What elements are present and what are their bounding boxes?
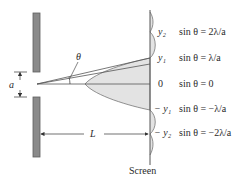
angle-label: θ [76, 52, 81, 62]
equation-neg-y2: sin θ = −2λ/a [179, 128, 231, 138]
position-label-neg-y1: − y₁ [154, 104, 171, 114]
lower-slit-barrier [33, 97, 40, 157]
equation-zero: sin θ = 0 [179, 79, 214, 89]
equation-y2: sin θ = 2λ/a [179, 27, 226, 37]
position-label-zero: 0 [158, 79, 163, 89]
slit-width-dimension [14, 72, 27, 97]
secondary-maxima-upper [150, 12, 155, 58]
position-label-y1: y₁ [158, 53, 166, 63]
position-label-neg-y2: − y₂ [154, 128, 171, 138]
equation-neg-y1: sin θ = −λ/a [179, 104, 226, 114]
slit-width-label: a [9, 80, 14, 90]
position-label-y2: y₂ [158, 27, 166, 37]
screen-label: Screen [129, 166, 156, 176]
distance-label: L [90, 129, 96, 139]
equation-y1: sin θ = λ/a [179, 53, 221, 63]
single-slit-diffraction-diagram: a θ L Screen y₂ sin θ = 2λ/a y₁ sin θ = … [0, 0, 251, 182]
upper-slit-barrier [33, 13, 40, 72]
